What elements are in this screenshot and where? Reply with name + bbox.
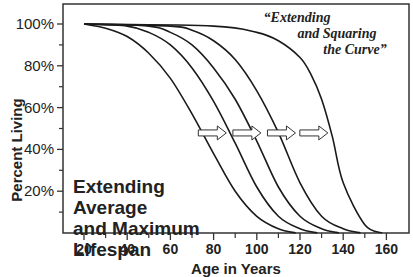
x-tick-label: 140	[332, 241, 356, 257]
x-tick-label: 100	[245, 241, 269, 257]
y-tick-label: 20%	[24, 182, 54, 199]
quote-line-3: the Curve”	[323, 42, 386, 57]
annotation-line-3: and Maximum	[73, 218, 200, 239]
annotation-line-1: Extending	[73, 176, 165, 197]
annotation-line-2: Average	[73, 197, 147, 218]
x-axis-title: Age in Years	[191, 260, 281, 277]
x-tick-label: 120	[288, 241, 312, 257]
quote-line-2: and Squaring	[298, 26, 377, 41]
y-tick-label: 60%	[24, 99, 54, 116]
annotation-line-4: Lifespan	[73, 239, 151, 260]
y-axis-title: Percent Living	[8, 98, 25, 201]
y-tick-label: 40%	[24, 140, 54, 157]
survival-curve-chart: 20%40%60%80%100% 20406080100120140160 Pe…	[0, 0, 413, 277]
x-tick-label: 80	[206, 241, 222, 257]
y-tick-label: 100%	[16, 15, 54, 32]
quote-line-1: “Extending	[264, 10, 331, 25]
y-tick-label: 80%	[24, 57, 54, 74]
x-tick-label: 160	[375, 241, 399, 257]
x-tick-label: 60	[163, 241, 179, 257]
